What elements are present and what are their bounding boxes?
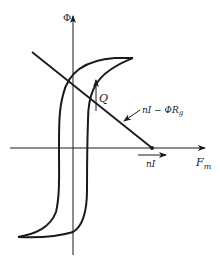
phi-axis-label: Φ	[63, 12, 71, 23]
load-line-pointer-arrow	[124, 110, 140, 121]
load-line	[32, 52, 152, 148]
load-line-intercept-point	[150, 146, 154, 150]
load-line-label: nI − ΦRg	[142, 105, 184, 117]
q-label: Q	[99, 92, 108, 105]
hysteresis-diagram: Q nI − ΦRg nI Φ Fm	[0, 0, 220, 265]
ni-label: nI	[146, 159, 156, 169]
fm-axis-label: Fm	[195, 156, 212, 171]
